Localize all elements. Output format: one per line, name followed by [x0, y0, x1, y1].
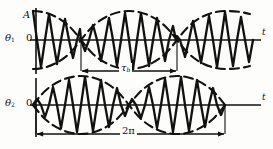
theta2-axis-label: θ2 [5, 98, 15, 108]
beat-oscillator-figure: A θ1 0 θ2 0 t t τb 2π [0, 0, 273, 149]
tau-subscript: b [127, 66, 131, 73]
amplitude-label: A [23, 10, 30, 20]
panel-theta1 [30, 8, 261, 74]
theta1-zero-label: 0 [26, 33, 32, 43]
panel-theta2 [30, 76, 261, 137]
theta2-zero-label: 0 [26, 98, 32, 108]
theta2-subscript: 2 [11, 101, 15, 108]
beat-period-label: τb [119, 63, 132, 73]
time-axis-label-top: t [262, 28, 266, 37]
theta1-axis-label: θ1 [5, 33, 15, 43]
time-axis-label-bottom: t [262, 93, 266, 102]
theta1-subscript: 1 [11, 36, 15, 43]
total-span-label: 2π [120, 126, 137, 136]
